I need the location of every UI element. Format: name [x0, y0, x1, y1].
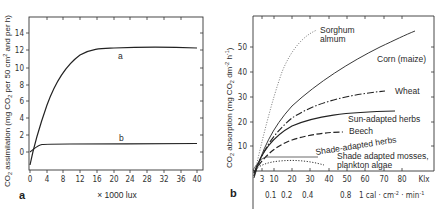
panel-b-x-unit: Klx [419, 175, 431, 184]
panel-a-xtick-label: 32 [159, 175, 168, 184]
panel-b-secondary-label: 0.1 [265, 191, 276, 200]
panel-b-xtick-label: 30 [305, 175, 315, 184]
panel-b-secondary-label: 0.4 [302, 191, 314, 200]
panel-b-xtick-label: 50 [342, 175, 352, 184]
panel-a-ytick-label: 8 [19, 81, 24, 90]
panel-b-label: b [230, 187, 237, 199]
panel-a-ytick-label: 14 [15, 29, 25, 38]
panel-a-frame [29, 17, 203, 170]
panel-b-xtick-label: 40 [324, 175, 334, 184]
panel-b-label-sorghum: almum [320, 34, 346, 44]
panel-b-xtick-label: 80 [397, 175, 407, 184]
panel-a-xtick-label: 0 [28, 175, 33, 184]
panel-a-ytick-label: 6 [19, 97, 24, 106]
panel-b-secondary-unit: 1 cal · cm-2 · min-1 [359, 190, 424, 200]
panel-a-ytick-label: 10 [15, 64, 25, 73]
panel-b-xtick-label: 20 [287, 175, 297, 184]
panel-b: 10 20 30 40 50 3 10 20 30 40 50 60 70 80… [224, 16, 434, 209]
panel-a-xtick-label: 8 [61, 175, 66, 184]
panel-b-label-mosses: plankton algae [337, 160, 393, 170]
panel-b-ytick-label: 20 [238, 118, 248, 127]
panel-a-xtick-label: 40 [192, 175, 202, 184]
panel-b-ytick-label: 50 [238, 43, 248, 52]
panel-b-label-corn: Corn (maize) [377, 54, 426, 64]
panel-a-ytick-label: 4 [19, 114, 24, 123]
panel-a-xtick-label: 12 [75, 175, 84, 184]
figure: 0 2 4 6 8 10 12 14 0 4 8 12 16 20 24 28 … [0, 0, 442, 209]
panel-a-xtick-label: 24 [125, 175, 135, 184]
panel-b-ytick-label: 10 [238, 142, 248, 151]
panel-a-curve-a [30, 47, 197, 165]
panel-b-curve-shade-herbs [253, 157, 318, 170]
panel-b-xtick-label: 60 [360, 175, 370, 184]
panel-b-y-axis-label: CO2 absorption (mg CO2 dm-2 h-1) [224, 47, 235, 168]
panel-a-xtick-label: 20 [109, 175, 119, 184]
panel-b-label-wheat: Wheat [395, 86, 420, 96]
panel-a-xtick-label: 28 [142, 175, 152, 184]
panel-a-y-axis-label: CO2 assimilation (mg CO2 per 50 cm2 and … [2, 15, 13, 187]
panel-b-curve-mosses [253, 160, 324, 171]
panel-b-xtick-label: 70 [379, 175, 389, 184]
panel-a-ytick-label: 12 [15, 46, 24, 55]
panel-a-ytick-label: 0 [19, 148, 24, 157]
panel-b-ytick-label: 40 [238, 68, 248, 77]
panel-b-label-beech: Beech [349, 126, 373, 136]
panel-a-ytick-label: 2 [19, 131, 24, 140]
panel-a-xtick-label: 16 [92, 175, 102, 184]
panel-b-xtick-label: 3 [260, 175, 265, 184]
panel-a-xtick-label: 4 [45, 175, 50, 184]
panel-b-ytick-label: 30 [238, 93, 248, 102]
panel-b-label-sun-herbs: Sun-adapted herbs [348, 114, 420, 124]
panel-a-curve-label-a: a [118, 51, 123, 61]
panel-b-secondary-label: 0.8 [340, 191, 352, 200]
panel-a-curve-b [30, 144, 197, 153]
panel-a-x-ticks [30, 17, 197, 173]
panel-b-secondary-label: 0.2 [281, 191, 292, 200]
panel-b-xtick-label: 10 [269, 175, 279, 184]
panel-a-xtick-label: 36 [176, 175, 186, 184]
panel-a-label: a [19, 189, 26, 201]
panel-a-curve-label-b: b [119, 133, 124, 143]
panel-a-x-axis-label: × 1000 lux [97, 190, 137, 200]
panel-a: 0 2 4 6 8 10 12 14 0 4 8 12 16 20 24 28 … [2, 15, 203, 201]
